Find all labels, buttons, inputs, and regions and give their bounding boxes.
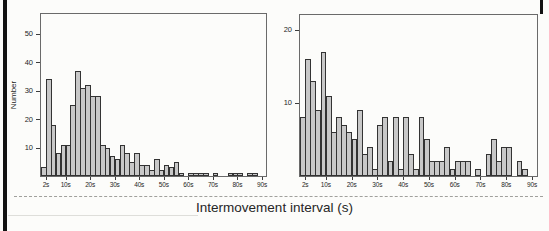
histogram-bar <box>310 81 316 176</box>
y-tick-label: 20 <box>13 116 33 124</box>
histogram-bar <box>105 148 111 176</box>
histogram-bar <box>134 153 140 176</box>
histogram-bar <box>377 125 383 176</box>
y-tick-mark <box>36 34 40 35</box>
x-tick-mark <box>377 177 378 180</box>
x-tick-mark <box>480 177 481 180</box>
histogram-bar <box>372 169 378 176</box>
histogram-bar <box>124 153 130 176</box>
histogram-bar <box>475 169 481 176</box>
histogram-bar <box>61 145 67 176</box>
histogram-bar <box>460 161 466 176</box>
x-tick-mark <box>46 177 47 180</box>
histogram-bar <box>388 161 394 176</box>
x-tick-label: 2s <box>295 181 315 188</box>
histogram-bar <box>315 110 321 176</box>
x-tick-mark <box>262 177 263 180</box>
x-tick-label: 80s <box>227 181 247 188</box>
y-tick-label: 30 <box>13 87 33 95</box>
histogram-bar <box>517 161 523 176</box>
histogram-bar <box>408 154 414 176</box>
histogram-bar <box>357 110 363 176</box>
y-tick-mark <box>36 148 40 149</box>
histogram-bar <box>51 125 57 176</box>
histogram-bar <box>491 139 497 176</box>
scan-artifact-top-right <box>540 0 543 14</box>
histogram-bar <box>46 79 52 176</box>
histogram-bar <box>398 169 404 176</box>
histogram-bar <box>465 161 471 176</box>
histogram-bar <box>120 145 126 176</box>
histogram-bar <box>321 52 327 176</box>
histogram-bar <box>80 88 86 176</box>
histogram-bar <box>434 161 440 176</box>
histogram-bar <box>305 59 311 176</box>
histogram-bar <box>403 117 409 176</box>
x-tick-label: 60s <box>178 181 198 188</box>
histogram-bar <box>129 162 135 176</box>
histogram-bar <box>228 173 234 176</box>
y-tick-label: 50 <box>13 30 33 38</box>
histogram-bar <box>439 161 445 176</box>
histogram-bar <box>247 173 253 176</box>
right-plot-area <box>299 14 538 177</box>
y-tick-mark <box>36 119 40 120</box>
y-tick-label: 20 <box>272 26 292 34</box>
histogram-bar <box>174 162 180 176</box>
histogram-bar <box>110 156 116 176</box>
y-tick-mark <box>295 30 299 31</box>
x-tick-mark <box>164 177 165 180</box>
x-tick-label: 30s <box>105 181 125 188</box>
histogram-bar <box>100 145 106 176</box>
histogram-bar <box>429 161 435 176</box>
x-tick-label: 50s <box>419 181 439 188</box>
histogram-bar <box>70 105 76 176</box>
x-tick-mark <box>237 177 238 180</box>
x-tick-mark <box>305 177 306 180</box>
y-tick-mark <box>295 103 299 104</box>
histogram-bar <box>444 147 450 176</box>
histogram-bar <box>144 165 150 176</box>
x-tick-mark <box>352 177 353 180</box>
histogram-bar <box>352 139 358 176</box>
figure-title: Intermovement interval (s) <box>0 200 549 215</box>
histogram-bar <box>496 161 502 176</box>
x-tick-label: 40s <box>129 181 149 188</box>
histogram-bar <box>486 154 492 176</box>
left-plot-area <box>40 13 267 177</box>
x-tick-mark <box>326 177 327 180</box>
x-tick-label: 40s <box>393 181 413 188</box>
x-tick-label: 90s <box>522 181 542 188</box>
x-tick-label: 2s <box>36 181 56 188</box>
histogram-bar <box>419 117 425 176</box>
histogram-bar <box>346 132 352 176</box>
dashed-separator-line <box>14 196 543 197</box>
histogram-bar <box>506 147 512 176</box>
histogram-bar <box>252 173 258 176</box>
x-tick-mark <box>115 177 116 180</box>
histogram-bar <box>66 145 72 176</box>
histogram-bar <box>237 173 243 176</box>
x-tick-label: 50s <box>154 181 174 188</box>
x-tick-label: 70s <box>470 181 490 188</box>
scan-artifact-faint-line <box>8 215 198 216</box>
y-tick-mark <box>36 62 40 63</box>
x-tick-mark <box>429 177 430 180</box>
histogram-bar <box>367 147 373 176</box>
x-tick-label: 70s <box>203 181 223 188</box>
histogram-bar <box>382 117 388 176</box>
x-tick-mark <box>90 177 91 180</box>
y-tick-label: 10 <box>13 144 33 152</box>
histogram-bar <box>90 96 96 176</box>
x-tick-label: 90s <box>252 181 272 188</box>
histogram-bar <box>179 173 185 176</box>
histogram-bar <box>300 117 306 176</box>
histogram-bar <box>424 139 430 176</box>
x-tick-label: 30s <box>367 181 387 188</box>
x-tick-mark <box>455 177 456 180</box>
x-tick-label: 10s <box>316 181 336 188</box>
x-tick-mark <box>506 177 507 180</box>
histogram-bar <box>139 165 145 176</box>
histogram-bar <box>159 170 165 176</box>
histogram-bar <box>95 96 101 176</box>
